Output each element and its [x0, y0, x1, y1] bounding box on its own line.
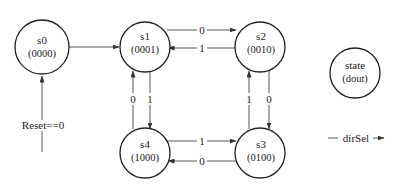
legend-state: state (dout) [330, 48, 380, 98]
state-s3-output: (0100) [247, 152, 275, 164]
edge-s2-s1-label: 1 [199, 42, 205, 54]
state-diagram: Reset==0 0 1 0 1 1 0 1 0 s0 (0000) s1 (0… [0, 0, 405, 187]
state-s0-name: s0 [37, 34, 47, 46]
legend-input-label: dirSel [343, 132, 369, 144]
legend-input: dirSel [328, 132, 384, 144]
state-s2: s2 (0010) [235, 22, 285, 72]
state-s1-name: s1 [140, 30, 150, 42]
state-s4-name: s4 [140, 138, 150, 150]
edge-s2-s3-label: 0 [266, 93, 272, 105]
edge-s3-s4-label: 0 [199, 155, 205, 167]
state-s0-output: (0000) [28, 48, 56, 60]
state-s0: s0 (0000) [15, 20, 69, 74]
legend: state (dout) dirSel [328, 48, 384, 144]
edge-s1-s2-label: 0 [199, 24, 205, 36]
edge-s1-s4-label: 1 [147, 93, 153, 105]
reset-label: Reset==0 [22, 119, 65, 131]
edge-s4-s1-label: 0 [130, 93, 136, 105]
state-s2-name: s2 [256, 30, 266, 42]
state-s4: s4 (1000) [120, 128, 170, 178]
edge-s4-s3-label: 1 [199, 135, 205, 147]
state-s1-output: (0001) [131, 44, 159, 56]
edge-s3-s2-label: 1 [246, 93, 252, 105]
state-s3: s3 (0100) [235, 128, 285, 178]
state-s4-output: (1000) [131, 152, 159, 164]
state-s1: s1 (0001) [120, 22, 170, 72]
legend-output-label: (dout) [342, 73, 368, 85]
state-s2-output: (0010) [247, 44, 275, 56]
state-s3-name: s3 [256, 138, 266, 150]
legend-state-label: state [345, 59, 365, 71]
